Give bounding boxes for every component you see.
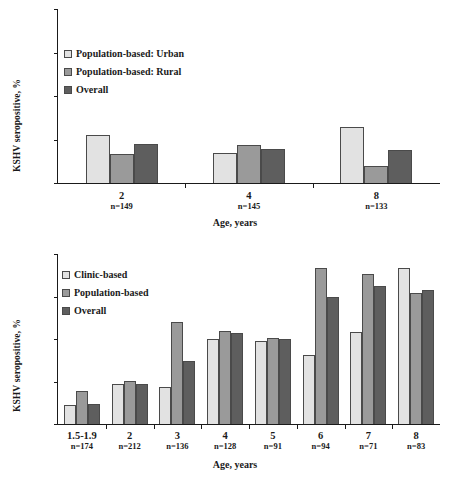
bar xyxy=(86,135,110,183)
bar xyxy=(110,154,134,183)
bar xyxy=(350,332,362,424)
bar xyxy=(207,339,219,424)
legend-item: Population-based: Urban xyxy=(64,47,184,61)
bar xyxy=(255,341,267,424)
x-category-name: 1.5-1.9 xyxy=(67,430,97,441)
bar-group xyxy=(313,9,440,183)
bar xyxy=(213,153,237,183)
x-tick-mark xyxy=(345,425,346,429)
legend-swatch-icon xyxy=(62,307,70,315)
bar xyxy=(303,355,315,424)
x-category-sample-size: n=83 xyxy=(392,442,440,451)
legend-swatch-icon xyxy=(62,289,70,297)
x-category-sample-size: n=71 xyxy=(345,442,393,451)
x-tick-mark xyxy=(392,425,393,429)
x-tick-mark xyxy=(185,184,186,188)
legend-swatch-icon xyxy=(64,50,72,58)
bar-group-bars xyxy=(154,254,202,424)
x-category-sample-size: n=94 xyxy=(297,442,345,451)
x-category-label: 4n=128 xyxy=(201,430,249,451)
chart-top-x-axis-title: Age, years xyxy=(0,217,470,228)
legend-item-label: Population-based: Urban xyxy=(76,49,184,59)
x-tick-mark xyxy=(154,425,155,429)
x-category-name: 4 xyxy=(246,190,251,201)
bar xyxy=(398,268,410,424)
bar-group xyxy=(201,254,249,424)
x-category-name: 8 xyxy=(374,190,379,201)
x-category-label: 2n=149 xyxy=(58,190,185,211)
bar-group-bars xyxy=(249,254,297,424)
bar-group-bars xyxy=(392,254,440,424)
x-category-name: 8 xyxy=(414,430,419,441)
legend-swatch-icon xyxy=(64,68,72,76)
legend-item: Overall xyxy=(62,304,148,318)
bar xyxy=(422,290,434,424)
bar xyxy=(219,331,231,425)
bar xyxy=(183,361,195,424)
x-category-name: 4 xyxy=(223,430,228,441)
bar xyxy=(315,268,327,424)
legend-item: Population-based xyxy=(62,286,148,300)
x-category-label: 4n=145 xyxy=(185,190,312,211)
x-category-sample-size: n=136 xyxy=(154,442,202,451)
x-category-name: 6 xyxy=(318,430,323,441)
x-category-name: 7 xyxy=(366,430,371,441)
bar xyxy=(88,404,100,424)
x-category-label: 6n=94 xyxy=(297,430,345,451)
legend-item-label: Overall xyxy=(74,306,106,316)
bar xyxy=(261,149,285,183)
chart-top-y-axis-label: KSHV seropositive, % xyxy=(12,79,22,172)
legend-item-label: Clinic-based xyxy=(74,270,127,280)
bar-group xyxy=(392,254,440,424)
legend-item: Population-based: Rural xyxy=(64,65,184,79)
x-tick-mark xyxy=(297,425,298,429)
bar xyxy=(124,381,136,424)
bar-group-bars xyxy=(345,254,393,424)
bar-group-bars xyxy=(297,254,345,424)
bar xyxy=(267,338,279,424)
bar xyxy=(279,339,291,424)
chart-bottom: KSHV seropositive, % 010203040 1.5-1.9n=… xyxy=(0,240,470,484)
x-category-label: 8n=83 xyxy=(392,430,440,451)
bar xyxy=(64,405,76,424)
figure-container: KSHV seropositive, % 010203040 2n=1494n=… xyxy=(0,0,470,484)
chart-top: KSHV seropositive, % 010203040 2n=1494n=… xyxy=(0,0,470,236)
x-category-label: 2n=212 xyxy=(106,430,154,451)
x-category-sample-size: n=149 xyxy=(58,202,185,211)
legend-swatch-icon xyxy=(64,86,72,94)
chart-bottom-y-axis-label: KSHV seropositive, % xyxy=(12,319,22,412)
bar-group xyxy=(249,254,297,424)
bar xyxy=(364,166,388,183)
x-category-sample-size: n=128 xyxy=(201,442,249,451)
x-category-sample-size: n=145 xyxy=(185,202,312,211)
bar-group xyxy=(185,9,312,183)
bar-group-bars xyxy=(185,9,312,183)
legend-item-label: Population-based: Rural xyxy=(76,67,181,77)
bar xyxy=(76,391,88,424)
x-category-label: 5n=91 xyxy=(249,430,297,451)
bar xyxy=(410,293,422,424)
bar xyxy=(362,274,374,424)
legend-item-label: Overall xyxy=(76,85,108,95)
x-category-name: 5 xyxy=(270,430,275,441)
x-category-name: 3 xyxy=(175,430,180,441)
chart-bottom-legend: Clinic-basedPopulation-basedOverall xyxy=(62,268,148,322)
x-tick-mark xyxy=(201,425,202,429)
bar-group-bars xyxy=(201,254,249,424)
legend-swatch-icon xyxy=(62,271,70,279)
bar xyxy=(374,286,386,424)
bar xyxy=(388,150,412,183)
bar xyxy=(136,384,148,424)
x-tick-mark xyxy=(106,425,107,429)
x-category-sample-size: n=212 xyxy=(106,442,154,451)
x-tick-mark xyxy=(249,425,250,429)
chart-bottom-x-axis-title: Age, years xyxy=(0,459,470,470)
x-category-name: 2 xyxy=(119,190,124,201)
bar xyxy=(340,127,364,183)
bar-group xyxy=(345,254,393,424)
x-category-label: 3n=136 xyxy=(154,430,202,451)
bar-group xyxy=(297,254,345,424)
x-tick-mark xyxy=(313,184,314,188)
x-category-label: 1.5-1.9n=174 xyxy=(58,430,106,451)
legend-item-label: Population-based xyxy=(74,288,148,298)
